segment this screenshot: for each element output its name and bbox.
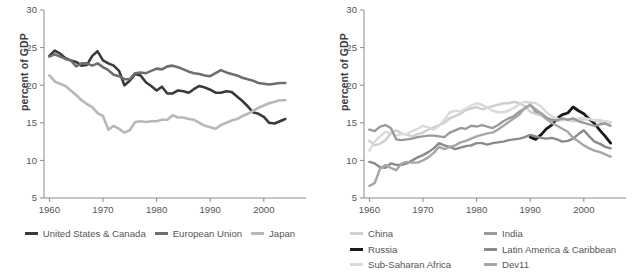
plot-area-left: percent of GDP 5101520253019601970198019… bbox=[0, 0, 320, 225]
svg-text:25: 25 bbox=[346, 42, 357, 53]
legend-swatch-icon bbox=[484, 263, 497, 266]
svg-text:1980: 1980 bbox=[466, 204, 487, 215]
legend-item[interactable]: Dev11 bbox=[484, 259, 616, 270]
series-line bbox=[369, 105, 610, 186]
legend-swatch-icon bbox=[350, 232, 363, 235]
legend-item[interactable]: Latin America & Caribbean bbox=[484, 244, 616, 255]
svg-text:30: 30 bbox=[26, 4, 37, 15]
svg-text:1960: 1960 bbox=[39, 204, 60, 215]
svg-text:1990: 1990 bbox=[520, 204, 541, 215]
chart-panel-left: percent of GDP 5101520253019601970198019… bbox=[0, 0, 320, 273]
legend-swatch-icon bbox=[484, 248, 497, 251]
legend-item[interactable]: China bbox=[350, 228, 478, 239]
svg-text:25: 25 bbox=[26, 42, 37, 53]
series-line bbox=[49, 75, 285, 132]
svg-text:15: 15 bbox=[346, 117, 357, 128]
legend-swatch-icon bbox=[25, 232, 38, 235]
legend-label: Latin America & Caribbean bbox=[502, 244, 616, 255]
legend-label: India bbox=[502, 228, 523, 239]
legend-row: United States & CanadaEuropean UnionJapa… bbox=[0, 226, 320, 241]
chart-panel-right: percent of GDP 5101520253019601970198019… bbox=[320, 0, 640, 273]
legend-item[interactable]: Russia bbox=[350, 244, 478, 255]
legend-item[interactable]: United States & Canada bbox=[25, 228, 146, 239]
svg-text:1990: 1990 bbox=[200, 204, 221, 215]
svg-text:1960: 1960 bbox=[359, 204, 380, 215]
line-chart-left: 5101520253019601970198019902000 bbox=[0, 0, 320, 225]
legend-label: Russia bbox=[368, 244, 397, 255]
figure-root: percent of GDP 5101520253019601970198019… bbox=[0, 0, 640, 273]
svg-text:2000: 2000 bbox=[573, 204, 594, 215]
legend-right: ChinaIndiaRussiaLatin America & Caribbea… bbox=[320, 226, 640, 273]
legend-item[interactable]: Sub-Saharan Africa bbox=[350, 259, 478, 270]
series-line bbox=[49, 54, 285, 84]
legend-swatch-icon bbox=[350, 248, 363, 251]
svg-text:2000: 2000 bbox=[253, 204, 274, 215]
legend-item[interactable]: European Union bbox=[155, 228, 242, 239]
plot-area-right: percent of GDP 5101520253019601970198019… bbox=[320, 0, 640, 225]
legend-label: Dev11 bbox=[502, 259, 529, 270]
line-chart-right: 5101520253019601970198019902000 bbox=[320, 0, 640, 225]
svg-text:15: 15 bbox=[26, 117, 37, 128]
svg-text:20: 20 bbox=[346, 80, 357, 91]
legend-item[interactable]: Japan bbox=[251, 228, 295, 239]
legend-item[interactable]: India bbox=[484, 228, 616, 239]
legend-label: China bbox=[368, 228, 393, 239]
legend-label: Japan bbox=[269, 228, 295, 239]
svg-text:1970: 1970 bbox=[92, 204, 113, 215]
svg-text:10: 10 bbox=[346, 155, 357, 166]
svg-text:10: 10 bbox=[26, 155, 37, 166]
legend-swatch-icon bbox=[484, 232, 497, 235]
svg-text:20: 20 bbox=[26, 80, 37, 91]
legend-label: European Union bbox=[173, 228, 242, 239]
svg-text:5: 5 bbox=[352, 192, 357, 203]
legend-grid: ChinaIndiaRussiaLatin America & Caribbea… bbox=[350, 226, 616, 273]
legend-label: Sub-Saharan Africa bbox=[368, 259, 451, 270]
svg-text:30: 30 bbox=[346, 4, 357, 15]
legend-left: United States & CanadaEuropean UnionJapa… bbox=[0, 226, 320, 273]
svg-text:5: 5 bbox=[32, 192, 37, 203]
legend-swatch-icon bbox=[155, 232, 168, 235]
legend-swatch-icon bbox=[251, 232, 264, 235]
legend-label: United States & Canada bbox=[43, 228, 146, 239]
svg-text:1970: 1970 bbox=[412, 204, 433, 215]
legend-swatch-icon bbox=[350, 263, 363, 266]
svg-text:1980: 1980 bbox=[146, 204, 167, 215]
